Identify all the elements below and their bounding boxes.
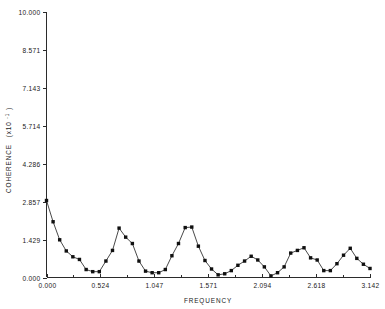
data-point	[355, 257, 358, 260]
data-point	[349, 247, 352, 250]
series-markers	[45, 199, 372, 278]
y-tick-label: 7.143	[22, 85, 40, 92]
x-tick-label: 0.000	[38, 282, 56, 289]
coherence-series	[45, 199, 372, 278]
coherence-spectrum-figure: 0.0001.4292.8574.2865.7147.1438.57110.00…	[0, 0, 385, 309]
data-point	[309, 256, 312, 259]
svg-text:COHERENCE (x10: COHERENCE (x10 -1 )	[3, 107, 13, 193]
y-axis-title-text: COHERENCE	[5, 144, 12, 193]
data-point	[183, 226, 186, 229]
data-point	[216, 273, 219, 276]
y-tick-label: 1.429	[22, 237, 40, 244]
data-point	[45, 199, 48, 202]
data-point	[203, 259, 206, 262]
data-point	[236, 264, 239, 267]
data-point	[177, 242, 180, 245]
data-point	[282, 265, 285, 268]
y-tick-label: 5.714	[22, 123, 40, 130]
data-point	[197, 244, 200, 247]
x-tick-label: 0.524	[91, 282, 109, 289]
data-point	[256, 258, 259, 261]
data-point	[65, 249, 68, 252]
x-tick-label: 1.047	[145, 282, 163, 289]
data-point	[322, 269, 325, 272]
data-point	[124, 235, 127, 238]
data-point	[170, 254, 173, 257]
data-point	[78, 258, 81, 261]
y-tick-label: 4.286	[22, 161, 40, 168]
data-point	[190, 225, 193, 228]
y-tick-label: 10.000	[19, 9, 41, 16]
y-axis-exponent-text: -1	[5, 113, 10, 119]
chart-canvas: 0.0001.4292.8574.2865.7147.1438.57110.00…	[0, 0, 385, 309]
data-point	[315, 258, 318, 261]
y-tick-label: 2.857	[22, 199, 40, 206]
data-point	[164, 268, 167, 271]
x-axis-tick-labels: 0.0000.5241.0471.5712.0942.6183.142	[38, 282, 379, 289]
data-point	[51, 220, 54, 223]
data-point	[58, 238, 61, 241]
data-point	[263, 265, 266, 268]
data-point	[131, 242, 134, 245]
y-axis-scale-close: )	[5, 107, 13, 110]
data-point	[230, 269, 233, 272]
data-point	[91, 270, 94, 273]
data-point	[104, 259, 107, 262]
data-point	[98, 270, 101, 273]
data-point	[249, 255, 252, 258]
data-point	[269, 274, 272, 277]
data-point	[84, 268, 87, 271]
data-point	[71, 255, 74, 258]
y-axis-tick-labels: 0.0001.4292.8574.2865.7147.1438.57110.00…	[19, 9, 41, 282]
data-point	[368, 267, 371, 270]
data-point	[243, 259, 246, 262]
data-point	[362, 263, 365, 266]
x-tick-label: 3.142	[361, 282, 379, 289]
x-tick-label: 2.618	[307, 282, 325, 289]
data-point	[302, 246, 305, 249]
y-axis: 0.0001.4292.8574.2865.7147.1438.57110.00…	[19, 9, 47, 282]
data-point	[117, 226, 120, 229]
series-line-coherence	[47, 201, 371, 276]
data-point	[289, 251, 292, 254]
data-point	[276, 271, 279, 274]
data-point	[329, 269, 332, 272]
data-point	[150, 271, 153, 274]
x-tick-label: 1.571	[199, 282, 217, 289]
x-axis-ticks	[48, 274, 371, 278]
x-tick-label: 2.094	[253, 282, 271, 289]
data-point	[111, 249, 114, 252]
y-axis-title: COHERENCE (x10 -1 )	[3, 107, 13, 193]
data-point	[157, 271, 160, 274]
data-point	[137, 259, 140, 262]
x-axis: 0.0000.5241.0471.5712.0942.6183.142	[38, 274, 379, 289]
y-tick-label: 8.571	[22, 47, 40, 54]
data-point	[223, 272, 226, 275]
data-point	[210, 267, 213, 270]
data-point	[335, 262, 338, 265]
y-axis-scale-text: (x10	[5, 121, 13, 137]
x-axis-title: FREQUENCY	[184, 297, 232, 305]
data-point	[342, 254, 345, 257]
data-point	[144, 269, 147, 272]
data-point	[296, 249, 299, 252]
